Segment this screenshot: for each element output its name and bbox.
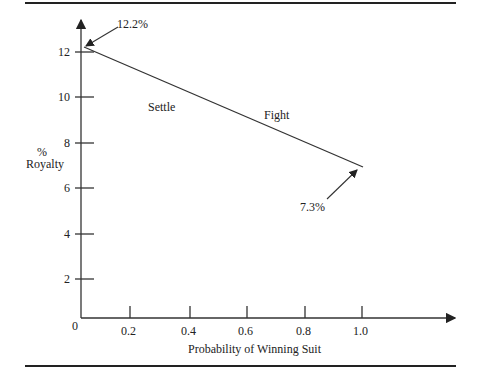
arrow-7-3 [327, 170, 357, 199]
y-tick-label: 4 [64, 227, 70, 242]
annotation-12-2: 12.2% [117, 17, 148, 32]
annotation-7-3: 7.3% [300, 200, 325, 215]
x-ticks [130, 306, 362, 318]
x-tick-label: 0.4 [181, 324, 196, 339]
y-tick-label: 8 [64, 136, 70, 151]
x-tick-label: 0.6 [238, 324, 253, 339]
label-fight: Fight [264, 108, 289, 123]
royalty-line [84, 47, 363, 167]
y-tick-label: 6 [64, 181, 70, 196]
y-ticks [75, 52, 94, 279]
y-tick-label: 2 [64, 272, 70, 287]
label-settle: Settle [148, 100, 175, 115]
y-tick-label: 12 [58, 45, 70, 60]
x-axis-label: Probability of Winning Suit [188, 342, 321, 357]
y-axis-label: Royalty [26, 157, 64, 172]
x-tick-label: 0.8 [296, 324, 311, 339]
y-tick-label: 10 [58, 90, 70, 105]
arrow-12-2 [86, 27, 118, 46]
x-tick-label: 0.2 [121, 324, 136, 339]
origin-label: 0 [72, 319, 78, 334]
x-tick-label: 1.0 [353, 324, 368, 339]
